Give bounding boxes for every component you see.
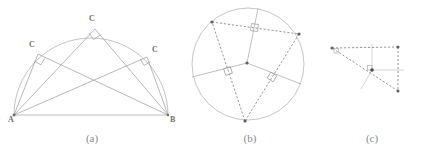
figure-c-caption: (c)	[352, 133, 392, 144]
figure-c-circumcenter-point	[370, 68, 374, 72]
figure-a-label-C2: C	[89, 15, 95, 23]
figure-c-vertex-left	[331, 47, 334, 50]
figure-b-vertex-bottom	[243, 119, 246, 122]
figure-c-vertex-bottom-right	[397, 90, 400, 93]
figure-c-triangle-side-hypotenuse	[332, 48, 398, 91]
figure-b-vertex-right	[297, 32, 300, 35]
figure-b-caption: (b)	[230, 133, 270, 144]
geometry-figures-svg	[0, 0, 431, 153]
figure-b-vertex-top-left	[210, 20, 213, 23]
figure-a-label-A: A	[8, 116, 14, 124]
figure-a-label-C3: C	[152, 46, 158, 54]
figure-b-perp-bisector-1	[247, 9, 258, 64]
figure-b-circumcenter-point	[245, 61, 248, 64]
figure-a-caption: (a)	[72, 133, 112, 144]
figure-b-perp-bisector-3	[192, 63, 247, 77]
figure-c-vertex-top-right	[397, 46, 400, 49]
figure-a-semicircle-arc	[14, 38, 168, 115]
figure-page: A B C C C (a) (b) (c)	[0, 0, 431, 153]
figure-b-triangle-side-left	[212, 22, 245, 121]
figure-a-segment-A-C2	[14, 29, 95, 115]
figure-b-group	[192, 8, 304, 123]
figure-a-point-B	[167, 114, 169, 116]
figure-c-triangle-side-top	[332, 47, 398, 48]
figure-a-label-C1: C	[29, 41, 35, 49]
figure-c-group	[331, 44, 405, 93]
figure-a-segment-B-C2	[95, 29, 168, 115]
figure-a-label-B: B	[170, 116, 175, 124]
figure-a-group	[13, 29, 170, 117]
figure-a-segment-A-C3	[14, 57, 147, 115]
figure-b-triangle-side-right	[245, 34, 299, 121]
